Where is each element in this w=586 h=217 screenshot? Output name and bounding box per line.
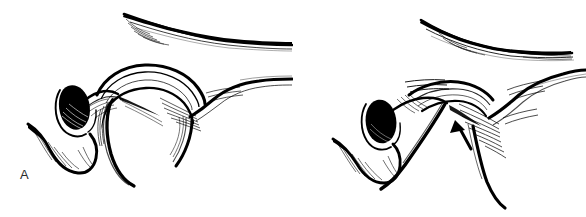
panel-b: B (293, 0, 586, 217)
superior-curved-bone (123, 14, 292, 51)
figure-root: A (0, 0, 586, 217)
panel-label-a: A (20, 168, 29, 181)
dark-foramen-oval (362, 100, 401, 150)
arch-outline (97, 65, 205, 123)
superior-curved-bone (420, 20, 574, 61)
shading-wedge (118, 96, 163, 126)
panel-a-illustration (0, 0, 293, 217)
descending-limb (98, 98, 134, 186)
panel-b-illustration (293, 0, 586, 217)
panel-a: A (0, 0, 293, 217)
hook-process-left (28, 124, 97, 173)
lateral-ramp (489, 70, 586, 125)
hook-process-left (333, 139, 400, 183)
shading-wedge (449, 105, 481, 126)
